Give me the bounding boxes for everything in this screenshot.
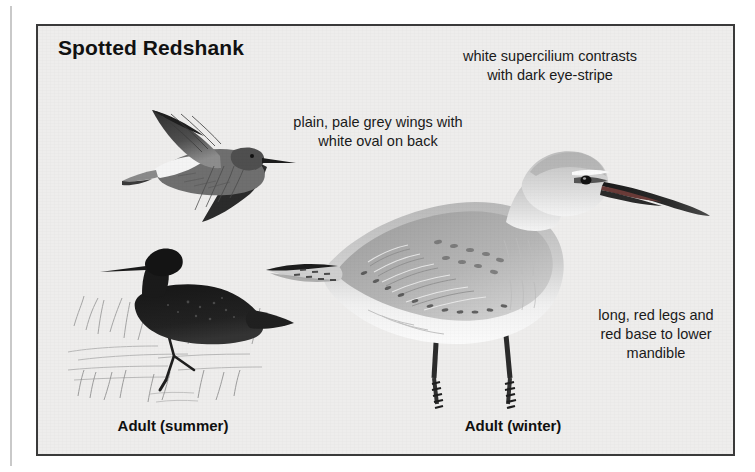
annotation-wings: plain, pale grey wings with white oval o… xyxy=(260,113,496,151)
annotation-wings-line1: plain, pale grey wings with xyxy=(260,113,496,132)
caption-adult-winter: Adult (winter) xyxy=(388,417,638,434)
figure-adult-winter xyxy=(266,151,710,408)
annotation-legs-line1: long, red legs and xyxy=(556,306,735,325)
figure-adult-summer xyxy=(68,248,294,402)
page-title: Spotted Redshank xyxy=(58,36,244,60)
annotation-supercilium-line2: with dark eye-stripe xyxy=(410,66,690,85)
illustration-panel: Spotted Redshank white supercilium contr… xyxy=(36,24,735,456)
annotation-legs: long, red legs and red base to lower man… xyxy=(556,306,735,363)
page-margin-rule xyxy=(10,6,12,466)
annotation-wings-line2: white oval on back xyxy=(260,132,496,151)
caption-adult-summer: Adult (summer) xyxy=(48,417,298,434)
annotation-supercilium-line1: white supercilium contrasts xyxy=(410,47,690,66)
annotation-supercilium: white supercilium contrasts with dark ey… xyxy=(410,47,690,85)
annotation-legs-line3: mandible xyxy=(556,344,735,363)
field-guide-plate: Spotted Redshank white supercilium contr… xyxy=(0,0,755,472)
annotation-legs-line2: red base to lower xyxy=(556,325,735,344)
plate-artwork xyxy=(38,26,735,456)
